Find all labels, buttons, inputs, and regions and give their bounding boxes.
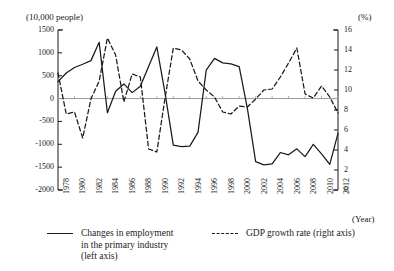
x-tick-label: 1998 [227,178,236,194]
legend-swatch-solid [47,233,73,234]
x-tick-label: 1996 [210,178,219,194]
x-tick-label: 1980 [78,178,87,194]
x-tick-label: 1978 [62,178,71,194]
x-tick-label: 1984 [111,178,120,194]
left-tick-label: 0 [20,94,54,103]
x-tick-label: 1990 [161,178,170,194]
x-tick-label: 2004 [276,178,285,194]
x-tick-label: 1994 [194,178,203,194]
right-tick-label: 2 [344,165,362,174]
x-tick-label: 1982 [95,178,104,194]
left-tick-label: -500 [20,116,54,125]
legend-entry-gdp-growth: GDP growth rate (right axis) [212,228,392,240]
x-tick-label: 1986 [128,178,137,194]
series-lines [58,38,338,165]
left-tick-label: 1500 [20,25,54,34]
right-tick-label: 6 [344,125,362,134]
left-axis-unit-label: (10,000 people) [26,12,83,22]
x-tick-label: 2008 [309,178,318,194]
series-line-0 [58,42,338,165]
x-tick-label: 2010 [326,178,335,194]
legend-label-gdp: GDP growth rate (right axis) [246,228,392,240]
right-tick-label: 8 [344,105,362,114]
left-tick-label: 500 [20,71,54,80]
left-tick-label: 1000 [20,48,54,57]
x-tick-label: 2006 [293,178,302,194]
legend-swatch-dashed [212,233,238,234]
right-axis-unit-label: (%) [358,12,372,22]
left-tick-label: -1000 [20,139,54,148]
right-tick-label: 12 [344,65,362,74]
legend-label-line-3: (left axis) [81,251,197,263]
right-tick-label: 10 [344,85,362,94]
zero-baseline [58,96,338,99]
right-tick-label: 14 [344,45,362,54]
x-axis-unit-label: (Year) [352,214,375,224]
chart-legend: Changes in employment in the primary ind… [0,228,394,271]
series-line-1 [58,38,338,152]
right-tick-label: 16 [344,25,362,34]
legend-label-line-1: Changes in employment [81,228,197,240]
legend-label-line-2: in the primary industry [81,240,197,252]
right-tick-label: 4 [344,145,362,154]
x-tick-label: 1988 [144,178,153,194]
x-tick-label: 2000 [243,178,252,194]
x-tick-label: 1992 [177,178,186,194]
legend-entry-primary-industry: Changes in employment in the primary ind… [47,228,197,263]
left-tick-label: -1500 [20,162,54,171]
x-tick-label: 2012 [342,178,351,194]
left-tick-label: -2000 [20,185,54,194]
x-tick-label: 2002 [260,178,269,194]
chart-container: (10,000 people) (%) (Year) 150010005000-… [0,0,394,271]
